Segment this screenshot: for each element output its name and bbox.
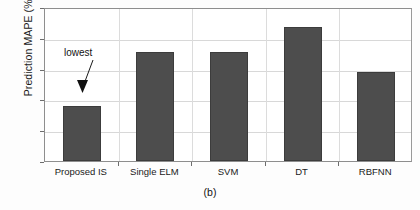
x-tick-label-svm: SVM [218,167,239,177]
bar-svm [210,52,248,161]
figure-caption: (b) [0,186,420,198]
x-tick-mark [118,162,119,166]
gridline-vertical [119,9,120,161]
plot-area [44,8,412,162]
figure-panel-b: Prediction MAPE (%) 012345 Proposed ISSi… [0,0,420,210]
y-tick-mark [40,162,44,163]
gridline-horizontal [45,40,411,41]
bar-proposed-is [63,106,101,161]
x-tick-label-dt: DT [295,167,308,177]
x-tick-label-rbfnn: RBFNN [359,167,392,177]
bar-rbfnn [357,72,395,161]
bar-single-elm [136,52,174,161]
x-tick-label-proposed-is: Proposed IS [55,167,107,177]
x-tick-mark [338,162,339,166]
y-axis-title: Prediction MAPE (%) [22,0,34,126]
x-tick-label-single-elm: Single ELM [130,167,179,177]
x-tick-mark [191,162,192,166]
annotation-lowest-label: lowest [64,47,92,58]
bar-dt [284,27,322,161]
gridline-vertical [339,9,340,161]
gridline-vertical [266,9,267,161]
gridline-vertical [192,9,193,161]
x-tick-mark [265,162,266,166]
